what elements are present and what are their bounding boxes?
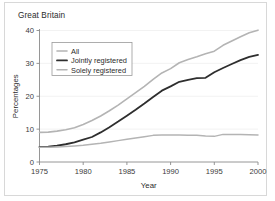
y-tick-label: 40 — [26, 26, 34, 35]
x-tick-label: 2000 — [250, 167, 267, 176]
y-tick-label: 0 — [30, 158, 34, 167]
y-tick-labels: 010203040 — [26, 26, 34, 167]
x-tick-label: 1980 — [75, 167, 92, 176]
legend-label-jointly-registered: Jointly registered — [71, 56, 127, 65]
x-tick-label: 1985 — [118, 167, 135, 176]
legend-label-solely-registered: Solely registered — [71, 66, 126, 75]
series-line-solely-registered — [40, 134, 259, 147]
line-chart: 010203040 197519801985199019952000 Perce… — [5, 3, 268, 197]
x-tick-label: 1990 — [162, 167, 179, 176]
chart-legend: AllJointly registeredSolely registered — [52, 43, 132, 76]
figure-card: Great Britain 010203040 1975198019851990… — [4, 2, 267, 196]
x-axis-label: Year — [141, 181, 157, 190]
y-tick-label: 20 — [26, 92, 34, 101]
y-tick-label: 30 — [26, 59, 34, 68]
x-tick-labels: 197519801985199019952000 — [31, 167, 266, 176]
y-axis-label: Percentages — [11, 74, 20, 118]
y-tick-label: 10 — [26, 125, 34, 134]
legend-label-all: All — [71, 47, 80, 56]
x-tick-label: 1975 — [31, 167, 48, 176]
x-tick-label: 1995 — [206, 167, 223, 176]
